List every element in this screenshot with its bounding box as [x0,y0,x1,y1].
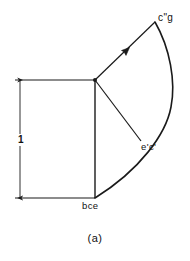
label-mid-right-point: e'c' [141,142,156,152]
label-top-right-vertex: c"g [158,13,173,23]
center-vertex-node [93,78,97,82]
outer-arc-curve [95,22,173,198]
label-dimension-value: 1 [16,134,26,146]
ray-to-ecprime-line [95,80,141,141]
figure-caption: (a) [0,232,190,244]
label-bottom-vertex: bce [82,201,99,211]
diagram-canvas [0,0,190,261]
direction-arrowhead-icon [122,48,130,56]
figure-container: c"g e'c' bce 1 (a) [0,0,190,261]
